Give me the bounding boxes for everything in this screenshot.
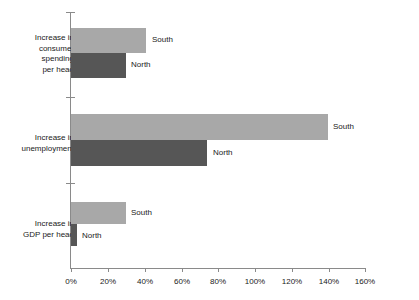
x-tick-160 xyxy=(365,268,366,272)
x-tick-80 xyxy=(218,268,219,272)
x-tick-label-40: 40% xyxy=(125,277,165,287)
bar-north-unemployment xyxy=(71,140,207,166)
x-tick-140 xyxy=(329,268,330,272)
bar-south-unemployment xyxy=(71,114,328,140)
bar-label-south-unemployment: South xyxy=(333,122,354,132)
bar-chart: Increase in consumer spending per head S… xyxy=(0,0,419,300)
x-tick-label-160: 160% xyxy=(345,277,385,287)
category-separator-tick xyxy=(66,97,75,98)
x-tick-label-20: 20% xyxy=(88,277,128,287)
bar-label-north-consumer-spending: North xyxy=(131,60,151,70)
category-label-consumer-spending: Increase in consumer spending per head xyxy=(0,33,74,75)
category-separator-tick xyxy=(66,183,75,184)
x-tick-label-0: 0% xyxy=(51,277,91,287)
category-label-gdp-per-head: Increase in GDP per head xyxy=(0,219,74,240)
bar-north-consumer-spending xyxy=(71,53,126,78)
x-tick-20 xyxy=(108,268,109,272)
x-tick-60 xyxy=(182,268,183,272)
bar-label-south-gdp: South xyxy=(131,208,152,218)
bar-label-south-consumer-spending: South xyxy=(152,35,173,45)
x-tick-label-80: 80% xyxy=(198,277,238,287)
x-tick-label-140: 140% xyxy=(309,277,349,287)
plot-area: Increase in consumer spending per head S… xyxy=(0,0,419,300)
x-tick-40 xyxy=(145,268,146,272)
bar-label-north-gdp: North xyxy=(82,231,102,241)
bar-label-north-unemployment: North xyxy=(213,148,233,158)
x-tick-0 xyxy=(71,268,72,272)
x-tick-label-60: 60% xyxy=(162,277,202,287)
bar-south-consumer-spending xyxy=(71,28,146,53)
bar-north-gdp xyxy=(71,224,77,246)
x-tick-100 xyxy=(255,268,256,272)
category-label-unemployment: Increase in unemployment xyxy=(0,133,74,154)
x-tick-label-120: 120% xyxy=(272,277,312,287)
bar-south-gdp xyxy=(71,202,126,224)
x-tick-120 xyxy=(292,268,293,272)
x-tick-label-100: 100% xyxy=(235,277,275,287)
